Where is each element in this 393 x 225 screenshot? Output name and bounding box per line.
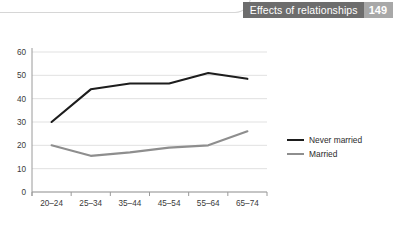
- x-axis-tickmarks: [32, 192, 267, 196]
- x-axis-tick-labels: 20–2425–3435–4445–5455–6465–74: [40, 199, 259, 208]
- legend-item-never-married: Never married: [287, 135, 362, 145]
- y-axis-tick-label: 50: [17, 71, 27, 80]
- legend-item-married: Married: [287, 149, 362, 159]
- chart-legend: Never married Married: [287, 135, 362, 159]
- x-axis-tick-label: 35–44: [119, 199, 142, 208]
- y-axis-tick-label: 10: [17, 165, 27, 174]
- line-chart-figure: 0102030405060 20–2425–3435–4445–5455–646…: [0, 40, 393, 220]
- header-chapter-title: Effects of relationships: [243, 2, 364, 18]
- y-axis-tick-labels: 0102030405060: [17, 48, 27, 197]
- line-swatch-icon: [287, 139, 304, 141]
- y-axis-tick-label: 20: [17, 141, 27, 150]
- legend-label-married: Married: [309, 149, 337, 159]
- x-axis-tick-label: 45–54: [158, 199, 181, 208]
- legend-label-never-married: Never married: [309, 135, 362, 145]
- header-page-number: 149: [364, 2, 393, 18]
- running-header: Effects of relationships 149: [243, 2, 393, 18]
- chart-canvas: 0102030405060 20–2425–3435–4445–5455–646…: [0, 40, 393, 220]
- page-decoration-rule: [0, 0, 251, 13]
- line-swatch-icon: [287, 153, 304, 155]
- x-axis-tick-label: 25–34: [79, 199, 102, 208]
- series-line-married: [52, 131, 248, 156]
- chart-gridlines: [32, 52, 267, 192]
- y-axis-tick-label: 40: [17, 95, 27, 104]
- x-axis-tick-label: 55–64: [197, 199, 220, 208]
- x-axis-tick-label: 65–74: [236, 199, 259, 208]
- y-axis-tick-label: 0: [21, 188, 26, 197]
- y-axis-tick-label: 60: [17, 48, 27, 57]
- y-axis-tick-label: 30: [17, 118, 27, 127]
- series-line-never-married: [52, 73, 248, 122]
- x-axis-tick-label: 20–24: [40, 199, 63, 208]
